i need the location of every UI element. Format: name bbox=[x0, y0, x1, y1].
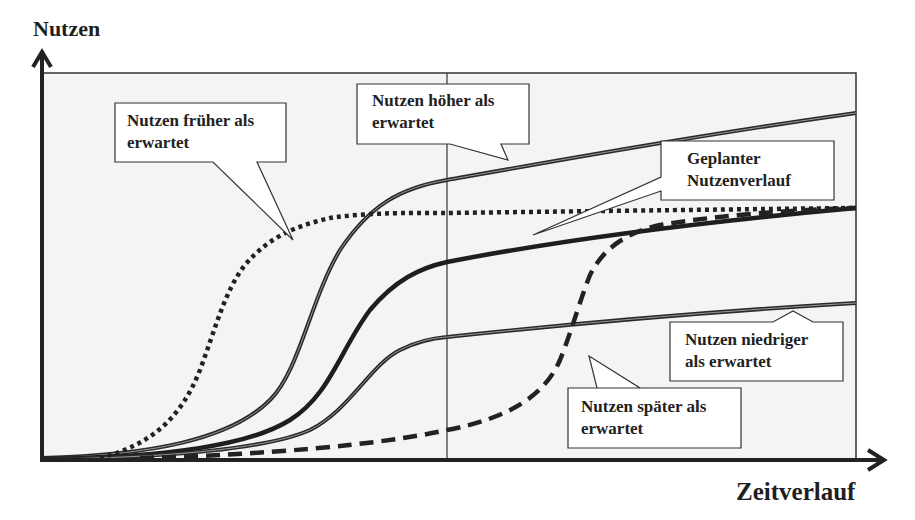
y-axis-label: Nutzen bbox=[33, 16, 100, 42]
x-axis-label: Zeitverlauf bbox=[736, 478, 855, 506]
callout-geplant-label: Geplanter Nutzenverlauf bbox=[687, 148, 791, 192]
callout-spaeter-label: Nutzen später als erwartet bbox=[581, 396, 706, 440]
benefit-curve-diagram bbox=[0, 0, 915, 520]
callout-niedriger-label: Nutzen niedriger als erwartet bbox=[685, 329, 808, 373]
callout-frueher-label: Nutzen früher als erwartet bbox=[127, 110, 254, 154]
callout-hoeher-label: Nutzen höher als erwartet bbox=[372, 90, 494, 134]
